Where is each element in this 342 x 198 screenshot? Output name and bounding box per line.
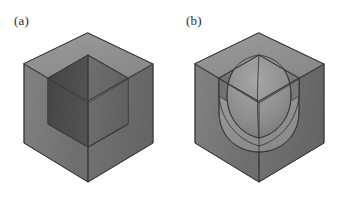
solid-b-filleted-corner-cube [171, 0, 342, 198]
solid-a-sharp-corner-cube [0, 0, 171, 198]
figure-root: (a) [0, 0, 342, 198]
panel-b: (b) [171, 0, 342, 198]
panel-a: (a) [0, 0, 171, 198]
